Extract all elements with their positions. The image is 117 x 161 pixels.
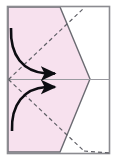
fold-diagram-svg: Origami fold step diagram [0,0,117,161]
origami-diagram-container: Origami fold step diagram [0,0,117,161]
